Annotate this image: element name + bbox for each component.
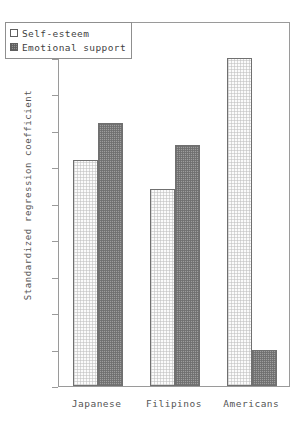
legend-swatch-icon — [10, 29, 18, 37]
bar — [98, 123, 123, 386]
bar — [73, 160, 98, 386]
legend-item: Self-esteem — [10, 26, 127, 40]
x-axis-category-label: Filipinos — [146, 398, 202, 409]
x-axis-category-label: Americans — [223, 398, 279, 409]
plot-area — [58, 22, 290, 387]
legend-label: Emotional support — [22, 42, 126, 53]
bar — [252, 350, 277, 387]
bar — [227, 58, 252, 387]
legend-swatch-icon — [10, 43, 18, 51]
bar — [175, 145, 200, 386]
legend-item: Emotional support — [10, 40, 127, 54]
x-axis-category-label: Japanese — [72, 398, 122, 409]
legend-label: Self-esteem — [22, 28, 89, 39]
bar — [150, 189, 175, 386]
y-tick-mark — [52, 387, 58, 388]
bars-layer — [59, 23, 289, 386]
legend: Self-esteem Emotional support — [5, 22, 132, 59]
bar-chart: Standardized regression coefficient 0.50… — [0, 0, 308, 429]
